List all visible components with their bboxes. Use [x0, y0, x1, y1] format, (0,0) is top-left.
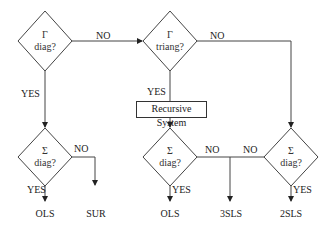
- outcome-ols-left: OLS: [36, 208, 55, 219]
- edge-label-sigma-right-no: NO: [243, 144, 257, 155]
- node-sigma-diag-mid: Σ diag?: [159, 145, 181, 169]
- node-sigma-diag-left: Σ diag?: [34, 145, 56, 169]
- sigma-symbol: Σ: [280, 145, 302, 157]
- edge-label-sigma-mid-no: NO: [205, 144, 219, 155]
- node-question: triang?: [156, 41, 184, 53]
- node-question: diag?: [280, 157, 302, 169]
- recursive-system-box: Recursive System: [136, 101, 207, 118]
- outcome-sur: SUR: [86, 208, 105, 219]
- outcome-ols-mid: OLS: [161, 208, 180, 219]
- outcome-2sls: 2SLS: [280, 208, 302, 219]
- sigma-symbol: Σ: [159, 145, 181, 157]
- node-question: diag?: [34, 157, 56, 169]
- edge-label-sigma-left-no: NO: [74, 143, 88, 154]
- edge-label-sigma-left-yes: YES: [27, 184, 46, 195]
- node-question: diag?: [34, 41, 56, 53]
- node-sigma-diag-right: Σ diag?: [280, 145, 302, 169]
- node-gamma-triang: Γ triang?: [156, 29, 184, 53]
- edge-label-gamma-triang-yes: YES: [147, 86, 166, 97]
- gamma-symbol: Γ: [156, 29, 184, 41]
- gamma-symbol: Γ: [34, 29, 56, 41]
- node-question: diag?: [159, 157, 181, 169]
- edge-label-sigma-mid-yes: YES: [172, 184, 191, 195]
- node-gamma-diag: Γ diag?: [34, 29, 56, 53]
- edge-label-sigma-right-yes: YES: [293, 184, 312, 195]
- edge-label-gamma-diag-yes: YES: [21, 88, 40, 99]
- edge-label-gamma-triang-no: NO: [210, 30, 224, 41]
- sigma-symbol: Σ: [34, 145, 56, 157]
- edge-label-gamma-diag-no: NO: [96, 30, 110, 41]
- outcome-3sls: 3SLS: [220, 208, 242, 219]
